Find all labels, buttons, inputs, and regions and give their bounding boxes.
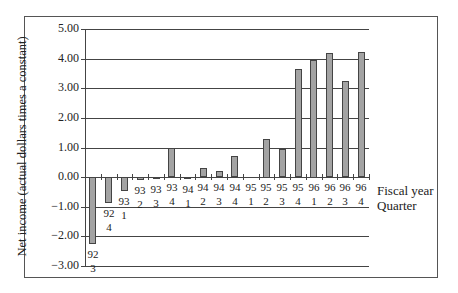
bar	[263, 139, 270, 178]
x-label-quarter: 1	[306, 194, 322, 208]
y-axis-title: Net income (actual dollars times a const…	[15, 37, 30, 257]
x-label-year: 96	[306, 180, 322, 194]
y-tick-label: −2.00	[39, 228, 79, 243]
x-label-year: 94	[227, 180, 243, 194]
x-label-quarter: 1	[180, 196, 196, 210]
x-label-year: 93	[132, 183, 148, 197]
x-label-year: 96	[322, 180, 338, 194]
x-label-year: 95	[290, 180, 306, 194]
bar	[137, 177, 144, 180]
x-category-label: 963	[337, 180, 353, 208]
x-label-quarter: 2	[258, 194, 274, 208]
bar	[279, 149, 286, 177]
x-category-label: 931	[116, 194, 132, 222]
bar	[89, 177, 96, 244]
bar	[342, 81, 349, 177]
bar	[326, 53, 333, 177]
bar	[184, 177, 191, 179]
x-category-label: 941	[180, 182, 196, 210]
bar	[105, 177, 112, 203]
x-label-year: 94	[180, 182, 196, 196]
x-category-label: 934	[164, 180, 180, 208]
x-label-year: 95	[258, 180, 274, 194]
x-axis-title-line1: Fiscal year	[377, 183, 434, 198]
x-category-label: 923	[85, 247, 101, 275]
x-tick	[369, 174, 370, 180]
bar	[200, 168, 207, 177]
chart-frame	[24, 16, 438, 278]
x-label-year: 92	[101, 206, 117, 220]
x-label-year: 93	[116, 194, 132, 208]
x-label-quarter: 2	[322, 194, 338, 208]
x-category-label: 961	[306, 180, 322, 208]
bar	[358, 52, 365, 177]
x-label-quarter: 3	[274, 194, 290, 208]
x-label-year: 92	[85, 247, 101, 261]
y-tick-label: −3.00	[39, 258, 79, 273]
x-label-quarter: 4	[353, 194, 369, 208]
x-label-year: 93	[164, 180, 180, 194]
gridline	[85, 266, 369, 267]
y-tick-label: 2.00	[39, 110, 79, 125]
x-label-quarter: 3	[85, 261, 101, 275]
x-axis-title-line2: Quarter	[377, 198, 434, 213]
bar	[153, 177, 160, 179]
x-category-label: 944	[227, 180, 243, 208]
bar	[231, 156, 238, 177]
x-tick	[132, 174, 133, 180]
x-label-quarter: 4	[227, 194, 243, 208]
bar	[310, 60, 317, 178]
x-label-year: 95	[274, 180, 290, 194]
x-label-quarter: 4	[164, 194, 180, 208]
bar	[295, 69, 302, 177]
x-label-quarter: 3	[148, 196, 164, 210]
x-label-quarter: 4	[101, 220, 117, 234]
bar	[216, 171, 223, 177]
y-tick-label: 5.00	[39, 21, 79, 36]
x-category-label: 943	[211, 180, 227, 208]
x-label-quarter: 4	[290, 194, 306, 208]
y-tick-label: −1.00	[39, 199, 79, 214]
y-tick-label: 4.00	[39, 51, 79, 66]
x-label-year: 94	[195, 180, 211, 194]
y-tick-label: 3.00	[39, 80, 79, 95]
gridline	[85, 236, 369, 237]
x-tick	[101, 174, 102, 180]
x-tick	[117, 174, 118, 180]
x-category-label: 932	[132, 183, 148, 211]
x-category-label: 924	[101, 206, 117, 234]
x-category-label: 964	[353, 180, 369, 208]
x-label-quarter: 2	[132, 197, 148, 211]
x-label-quarter: 2	[195, 194, 211, 208]
x-category-label: 954	[290, 180, 306, 208]
x-label-year: 93	[148, 182, 164, 196]
x-axis-title: Fiscal year Quarter	[377, 183, 434, 213]
x-category-label: 952	[258, 180, 274, 208]
x-label-year: 95	[243, 180, 259, 194]
x-label-year: 94	[211, 180, 227, 194]
x-category-label: 962	[322, 180, 338, 208]
gridline	[85, 29, 369, 30]
x-label-year: 96	[337, 180, 353, 194]
bar	[168, 148, 175, 177]
bar	[121, 177, 128, 191]
y-axis	[85, 29, 86, 266]
x-label-quarter: 3	[337, 194, 353, 208]
x-label-quarter: 3	[211, 194, 227, 208]
x-label-quarter: 1	[243, 194, 259, 208]
x-tick	[148, 174, 149, 180]
x-tick	[180, 174, 181, 180]
x-category-label: 951	[243, 180, 259, 208]
x-category-label: 942	[195, 180, 211, 208]
x-label-year: 96	[353, 180, 369, 194]
y-tick-label: 1.00	[39, 140, 79, 155]
x-category-label: 933	[148, 182, 164, 210]
x-label-quarter: 1	[116, 208, 132, 222]
x-category-label: 953	[274, 180, 290, 208]
y-tick-label: 0.00	[39, 169, 79, 184]
